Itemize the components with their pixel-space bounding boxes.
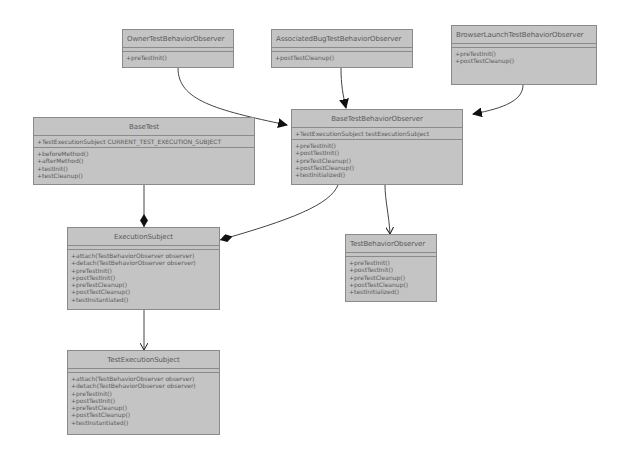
operation: +preTestCleanup() [71,281,216,288]
class-name: TestBehaviorObserver [346,235,436,253]
class-test-behavior-observer[interactable]: TestBehaviorObserver +preTestInit() +pos… [345,234,437,302]
operation: +detach(TestBehaviorObserver observer) [71,382,216,389]
operation: +afterMethod() [37,157,251,164]
attribute: +TestExecutionSubject CURRENT_TEST_EXECU… [37,138,251,145]
class-name: OwnerTestBehaviorObserver [123,30,233,48]
operation: +postTestInit() [349,266,433,273]
class-operations: +attach(TestBehaviorObserver observer) +… [68,373,219,429]
operation: +postTestCleanup() [295,164,459,171]
class-name: ExecutionSubject [68,228,219,246]
operation: +beforeMethod() [37,150,251,157]
class-operations: +beforeMethod() +afterMethod() +testInit… [34,148,254,182]
operation: +postTestCleanup() [455,57,593,64]
edge-base-observer-to-testbehaviorobserver [385,185,390,234]
operation: +preTestCleanup() [295,157,459,164]
operation: +preTestInit() [295,142,459,149]
operation: +preTestCleanup() [71,404,216,411]
class-name: BrowserLaunchTestBehaviorObserver [452,26,596,44]
operation: +postTestCleanup() [71,288,216,295]
class-name: BaseTestBehaviorObserver [292,110,462,128]
class-attributes: +TestExecutionSubject testExecutionSubje… [292,128,462,140]
operation: +postTestInit() [71,274,216,281]
operation: +preTestInit() [126,54,230,61]
operation: +postTestCleanup() [349,281,433,288]
class-execution-subject[interactable]: ExecutionSubject +attach(TestBehaviorObs… [67,227,220,310]
class-base-test-behavior-observer[interactable]: BaseTestBehaviorObserver +TestExecutionS… [291,109,463,185]
operation: +preTestInit() [71,267,216,274]
operation: +testInitialized() [349,288,433,295]
class-operations: +preTestInit() [123,52,233,64]
operation: +testCleanup() [37,172,251,179]
class-name: AssociatedBugTestBehaviorObserver [272,30,412,48]
operation: +detach(TestBehaviorObserver observer) [71,259,216,266]
class-operations: +attach(TestBehaviorObserver observer) +… [68,250,219,306]
edge-browserlaunch-to-base-observer [473,85,523,114]
class-owner-test-behavior-observer[interactable]: OwnerTestBehaviorObserver +preTestInit() [122,29,234,68]
class-operations: +postTestCleanup() [272,52,412,64]
class-browser-launch-test-behavior-observer[interactable]: BrowserLaunchTestBehaviorObserver +preTe… [451,25,597,85]
operation: +attach(TestBehaviorObserver observer) [71,252,216,259]
class-name: BaseTest [34,118,254,136]
class-associated-bug-test-behavior-observer[interactable]: AssociatedBugTestBehaviorObserver +postT… [271,29,413,68]
class-operations: +preTestInit() +postTestInit() +preTestC… [292,140,462,181]
edge-associatedbug-to-base-observer [341,68,346,108]
class-base-test[interactable]: BaseTest +TestExecutionSubject CURRENT_T… [33,117,255,185]
class-name: TestExecutionSubject [68,351,219,369]
operation: +preTestCleanup() [349,274,433,281]
operation: +preTestInit() [349,259,433,266]
operation: +testInstantiated() [71,296,216,303]
operation: +testInit() [37,165,251,172]
operation: +postTestCleanup() [71,411,216,418]
operation: +postTestInit() [295,149,459,156]
operation: +testInitialized() [295,171,459,178]
operation: +attach(TestBehaviorObserver observer) [71,375,216,382]
operation: +preTestInit() [71,390,216,397]
edge-base-observer-to-executionsubject [220,185,338,240]
operation: +postTestCleanup() [275,54,409,61]
attribute: +TestExecutionSubject testExecutionSubje… [295,130,459,137]
class-operations: +preTestInit() +postTestInit() +preTestC… [346,257,436,298]
class-operations: +preTestInit() +postTestCleanup() [452,48,596,68]
class-attributes: +TestExecutionSubject CURRENT_TEST_EXECU… [34,136,254,148]
operation: +postTestInit() [71,397,216,404]
operation: +preTestInit() [455,50,593,57]
class-test-execution-subject[interactable]: TestExecutionSubject +attach(TestBehavio… [67,350,220,435]
operation: +testInstantiated() [71,419,216,426]
